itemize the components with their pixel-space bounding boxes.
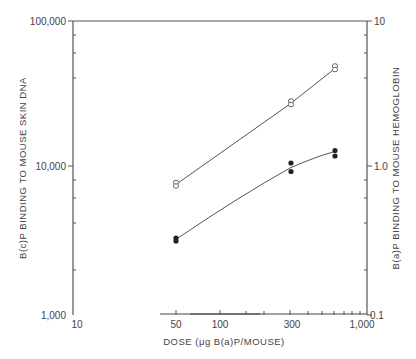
y-right-axis-title: B(a)P BINDING TO MOUSE HEMOGLOBIN — [390, 67, 401, 270]
series-skin-dna — [173, 64, 337, 189]
open-circle-marker — [173, 184, 178, 189]
filled-circle-marker — [332, 153, 337, 158]
x-label-10: 10 — [71, 319, 83, 330]
x-label-50: 50 — [170, 319, 182, 330]
y-right-axis-ticks — [364, 21, 372, 315]
x-axis — [160, 310, 367, 315]
y-right-label-1: 1.0 — [374, 161, 388, 172]
plot-frame — [73, 21, 367, 315]
y-left-label-100000: 100,000 — [30, 16, 67, 27]
dose-response-chart: 100,000 10,000 1,000 10 1.0 0.1 10 50 10… — [0, 0, 416, 359]
hemoglobin-curve — [178, 152, 333, 238]
x-label-300: 300 — [284, 319, 301, 330]
series-hemoglobin — [173, 148, 337, 244]
filled-circle-marker — [173, 238, 178, 243]
y-left-label-10000: 10,000 — [35, 161, 66, 172]
y-left-label-1000: 1,000 — [41, 310, 66, 321]
filled-circle-marker — [288, 169, 293, 174]
y-left-axis-title: B(c)P BINDING TO MOUSE SKIN DNA — [17, 77, 28, 259]
y-right-label-10: 10 — [374, 16, 386, 27]
y-left-axis-ticks — [68, 21, 76, 270]
skin-dna-line — [178, 70, 333, 183]
x-label-100: 100 — [212, 319, 229, 330]
filled-circle-marker — [288, 160, 293, 165]
x-axis-title: DOSE (μg B(a)P/MOUSE) — [163, 336, 285, 347]
filled-circle-marker — [332, 148, 337, 153]
open-circle-marker — [332, 67, 337, 72]
x-label-1000: 1,000 — [349, 319, 374, 330]
open-circle-marker — [288, 102, 293, 107]
